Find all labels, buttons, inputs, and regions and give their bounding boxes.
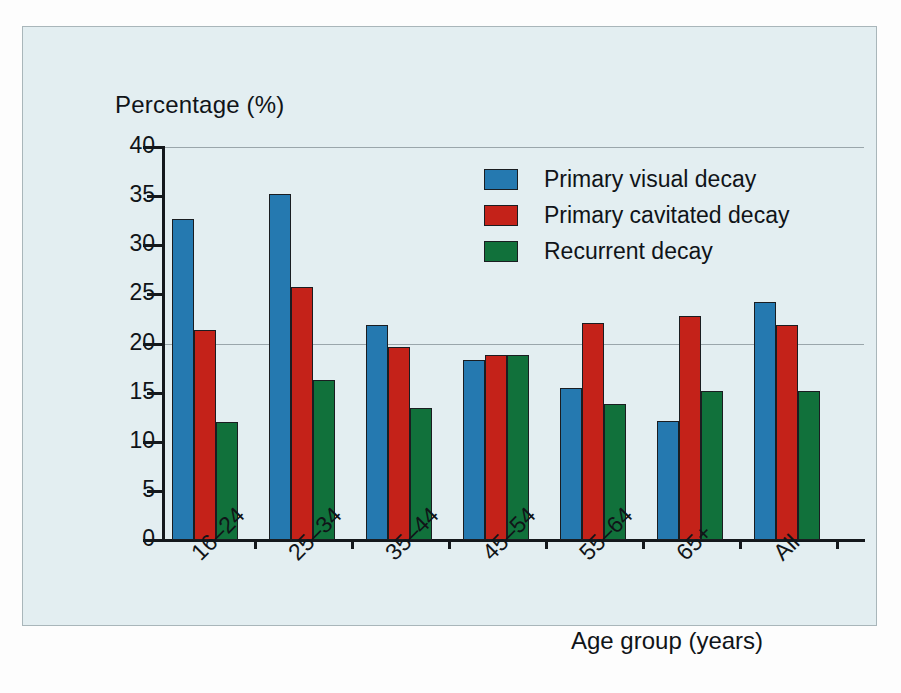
bar [657, 421, 679, 540]
bar [754, 302, 776, 540]
y-tick-0 [143, 539, 165, 542]
bar [701, 391, 723, 540]
y-tick-15 [147, 392, 165, 395]
x-tick-5 [739, 539, 742, 549]
legend-label: Primary visual decay [544, 166, 756, 193]
bar [485, 355, 507, 540]
bar [560, 388, 582, 540]
y-tick-10 [143, 441, 165, 444]
y-tick-35 [147, 195, 165, 198]
bar [798, 391, 820, 540]
bar [291, 287, 313, 540]
bar [776, 325, 798, 540]
bar [679, 316, 701, 540]
x-tick-0 [254, 539, 257, 549]
legend-label: Primary cavitated decay [544, 202, 789, 229]
y-tick-20 [143, 343, 165, 346]
bar [269, 194, 291, 540]
legend-swatch-icon [484, 205, 518, 226]
y-tick-30 [143, 244, 165, 247]
bar [366, 325, 388, 540]
x-tick-6 [836, 539, 839, 549]
gridline-40 [164, 147, 864, 148]
bar [388, 347, 410, 540]
bar [172, 219, 194, 540]
y-tick-40 [143, 146, 165, 149]
bar [194, 330, 216, 540]
x-tick-2 [448, 539, 451, 549]
legend-item: Recurrent decay [484, 233, 789, 269]
x-tick-3 [545, 539, 548, 549]
bar [463, 360, 485, 540]
x-tick-4 [642, 539, 645, 549]
bar [582, 323, 604, 540]
legend-swatch-icon [484, 241, 518, 262]
legend-item: Primary cavitated decay [484, 197, 789, 233]
y-axis-title: Percentage (%) [115, 91, 285, 119]
legend-swatch-icon [484, 169, 518, 190]
legend-label: Recurrent decay [544, 238, 713, 265]
y-tick-5 [147, 490, 165, 493]
x-tick-1 [351, 539, 354, 549]
chart-figure: Percentage (%) 0510152025303540 Primary … [22, 26, 877, 626]
x-axis-title: Age group (years) [571, 627, 763, 655]
y-tick-25 [147, 293, 165, 296]
legend-item: Primary visual decay [484, 161, 789, 197]
chart-legend: Primary visual decayPrimary cavitated de… [484, 161, 789, 269]
